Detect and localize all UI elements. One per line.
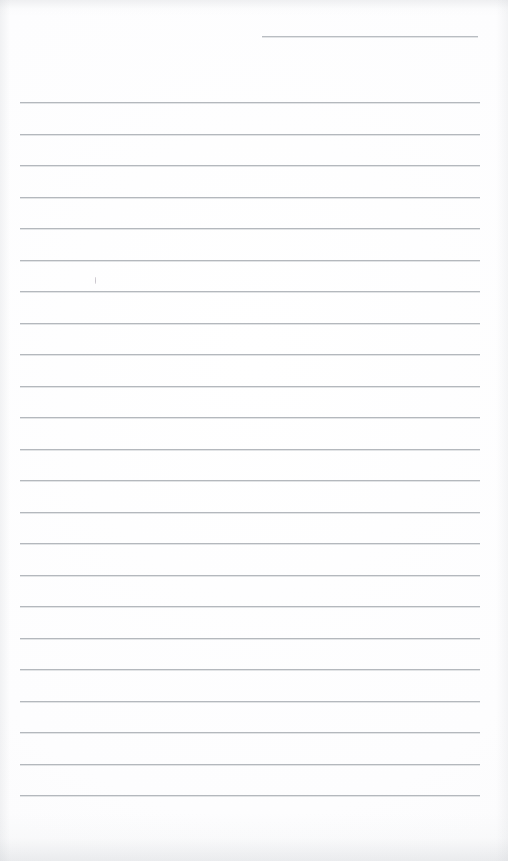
ruled-line [20,575,480,576]
scan-artifact-top-edge [0,0,508,16]
scanned-page [0,0,508,861]
scan-artifact-right-edge [496,0,508,861]
ruled-line [20,165,480,166]
ruled-line [20,764,480,765]
ruled-line [20,480,480,481]
ruled-line [20,417,480,418]
ruled-line [20,795,480,796]
ruled-line [20,260,480,261]
ruled-line [20,512,480,513]
ruled-line [20,701,480,702]
scan-artifact-bottom-edge [0,813,508,861]
ruled-line [20,386,480,387]
ruled-line [20,543,480,544]
ruled-line [20,291,480,292]
ruled-line [20,606,480,607]
ruled-line [20,197,480,198]
ruled-line [20,354,480,355]
scan-artifact-left-edge [0,0,10,861]
ruled-line [20,134,480,135]
ruled-line [20,102,480,103]
header-rule [262,36,478,37]
ruled-line [20,323,480,324]
ruled-line [20,732,480,733]
ruled-line [20,449,480,450]
pen-tick-mark [95,277,96,284]
ruled-line [20,228,480,229]
ruled-line [20,638,480,639]
ruled-line [20,669,480,670]
